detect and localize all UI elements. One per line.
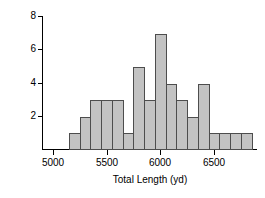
x-tick-label-5500: 5500	[87, 157, 127, 168]
x-tick-label-5000: 5000	[33, 157, 73, 168]
x-tick-5500	[107, 150, 108, 155]
x-tick-6500	[214, 150, 215, 155]
y-tick-label-8: 8	[18, 11, 36, 21]
x-axis-title: Total Length (yd)	[40, 174, 260, 185]
y-tick-label-4: 4	[18, 78, 36, 88]
x-tick-label-6500: 6500	[194, 157, 234, 168]
histogram-bar	[241, 133, 253, 150]
x-tick-label-6000: 6000	[140, 157, 180, 168]
histogram-bars	[42, 16, 257, 150]
histogram-figure: # of BC Golf Courses 2468 50005500600065…	[0, 0, 265, 198]
x-tick-5000	[53, 150, 54, 155]
x-tick-6000	[160, 150, 161, 155]
y-tick-label-2: 2	[18, 111, 36, 121]
y-tick-label-6: 6	[18, 44, 36, 54]
